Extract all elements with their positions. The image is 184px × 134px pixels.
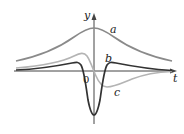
t-axis-label: t bbox=[173, 72, 178, 85]
curve-b-label: b bbox=[105, 52, 112, 65]
y-axis-arrow-icon bbox=[92, 13, 97, 20]
curve-c-label: c bbox=[114, 86, 120, 99]
curves-plot: y t 0 a b c bbox=[0, 0, 184, 134]
origin-label: 0 bbox=[83, 74, 89, 85]
curve-a-label: a bbox=[110, 23, 117, 36]
y-axis-label: y bbox=[83, 9, 91, 22]
diagram-canvas: y t 0 a b c bbox=[0, 0, 184, 134]
